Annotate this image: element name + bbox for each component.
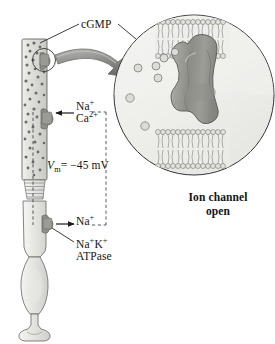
inset-caption-line-2: open — [166, 204, 270, 218]
cgmp-gated-channel-cell — [40, 52, 50, 69]
cgmp-leader-left — [40, 24, 79, 43]
pump-sodium: Na — [76, 238, 90, 250]
rod-photoreceptor-cell — [19, 39, 56, 341]
diagram-canvas — [0, 0, 275, 344]
lipid-bilayer-lower — [155, 128, 230, 169]
label-na-ca: Na+ Ca2+ — [76, 100, 98, 125]
inset-caption: Ion channel open — [166, 190, 270, 219]
sodium-efflux-text: Na — [76, 215, 90, 227]
connecting-cilium — [24, 180, 45, 199]
vm-value: = −45 mV — [61, 159, 109, 171]
atpase-line-1: Na+K+ — [76, 238, 112, 250]
cell-body — [21, 257, 48, 314]
pump-potassium: K — [94, 238, 102, 250]
label-cgmp: cGMP — [81, 18, 111, 30]
calcium-text: Ca — [76, 112, 89, 124]
pump-potassium-charge: + — [103, 236, 108, 245]
cgmp-text: cGMP — [81, 18, 111, 30]
ion-channel-inset — [114, 15, 274, 175]
synaptic-terminal — [19, 314, 50, 341]
magnifier-arrow — [55, 49, 127, 77]
calcium-charge: 2+ — [89, 111, 98, 120]
sodium-efflux-charge: + — [90, 213, 95, 222]
inset-caption-line-1: Ion channel — [166, 190, 270, 204]
atpase-leader — [52, 228, 74, 242]
rod-photoreceptor-figure: cGMP Na+ Ca2+ Vm= −45 mV Na+ Na+K+ ATPas… — [0, 0, 275, 344]
na-ca-channel — [41, 109, 53, 129]
label-sodium-efflux: Na+ — [76, 215, 94, 227]
label-calcium-influx: Ca2+ — [76, 112, 98, 124]
atpase-line-2: ATPase — [76, 250, 112, 262]
na-k-atpase-pump — [42, 215, 53, 233]
label-membrane-potential: Vm= −45 mV — [47, 159, 109, 171]
label-na-k-atpase: Na+K+ ATPase — [76, 238, 112, 263]
sodium-text: Na — [76, 100, 90, 112]
sodium-charge: + — [90, 98, 95, 107]
